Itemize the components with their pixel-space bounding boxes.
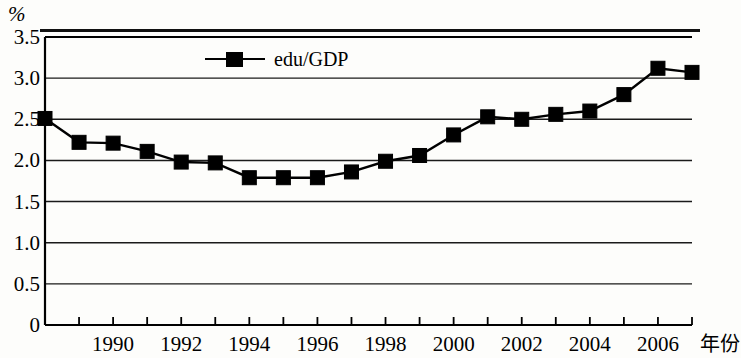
data-point-marker — [174, 155, 188, 169]
plot-area — [0, 0, 741, 358]
data-point-marker — [379, 154, 393, 168]
data-point-marker — [617, 88, 631, 102]
legend-marker-edu-gdp — [205, 50, 265, 68]
plot-frame — [45, 37, 692, 325]
data-point-marker — [310, 171, 324, 185]
data-point-marker — [208, 156, 222, 170]
data-point-marker — [72, 135, 86, 149]
data-point-marker — [242, 171, 256, 185]
data-point-marker — [651, 61, 665, 75]
data-line-edu-gdp — [45, 68, 692, 177]
data-point-marker — [481, 110, 495, 124]
data-point-marker — [106, 136, 120, 150]
data-polyline — [45, 68, 692, 177]
data-point-marker — [447, 128, 461, 142]
data-point-marker — [549, 107, 563, 121]
chart-legend: edu/GDP — [205, 46, 348, 72]
data-point-marker — [685, 65, 699, 79]
data-point-marker — [38, 111, 52, 125]
chart-figure: % 3.53.02.52.01.51.00.50 199019921994199… — [0, 0, 741, 358]
data-point-marker — [515, 112, 529, 126]
data-point-marker — [140, 144, 154, 158]
x-axis-ticks — [45, 317, 692, 325]
data-point-marker — [413, 148, 427, 162]
data-point-marker — [344, 165, 358, 179]
data-point-marker — [276, 171, 290, 185]
legend-label-edu-gdp: edu/GDP — [274, 49, 348, 69]
legend-square-marker — [226, 52, 243, 67]
data-point-marker — [583, 104, 597, 118]
